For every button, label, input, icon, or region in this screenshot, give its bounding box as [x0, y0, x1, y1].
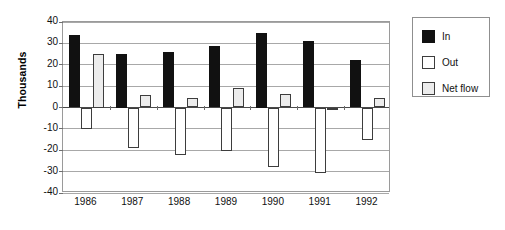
bar-group	[344, 22, 391, 191]
bar-net-flow-1989	[233, 88, 244, 107]
y-tick-label: 20	[32, 59, 58, 69]
bar-in-1990	[256, 33, 267, 108]
legend-item-net-flow[interactable]: Net flow	[422, 81, 478, 95]
bar-in-1991	[303, 41, 314, 107]
bar-group	[110, 22, 157, 191]
y-tick-label: 0	[32, 102, 58, 112]
legend-swatch-icon	[422, 82, 435, 95]
x-tick-label-1986: 1986	[62, 196, 109, 207]
x-tick-label-1988: 1988	[156, 196, 203, 207]
y-axis-tick-labels: 403020100-10-20-30-40	[29, 21, 58, 192]
bar-out-1989	[221, 108, 232, 152]
plot-area	[62, 21, 390, 192]
y-tick-label: -40	[32, 187, 58, 197]
bar-out-1991	[315, 108, 326, 173]
bar-group	[63, 22, 110, 191]
bar-in-1986	[69, 35, 80, 108]
x-axis-tick-labels: 1986198719881989199019911992	[62, 196, 390, 212]
y-tick-label: 30	[32, 37, 58, 47]
chart-legend: InOutNet flow	[412, 17, 490, 97]
legend-item-in[interactable]: In	[422, 29, 450, 43]
bar-in-1989	[209, 46, 220, 108]
bar-group	[204, 22, 251, 191]
bar-out-1992	[362, 108, 373, 140]
bar-out-1986	[81, 108, 92, 129]
legend-swatch-icon	[422, 56, 435, 69]
y-tick-label: -20	[32, 144, 58, 154]
bar-in-1987	[116, 54, 127, 107]
bar-in-1988	[163, 52, 174, 108]
bar-group	[250, 22, 297, 191]
y-tick-label: 40	[32, 16, 58, 26]
x-tick-label-1989: 1989	[203, 196, 250, 207]
y-tick-label: -10	[32, 123, 58, 133]
y-tick-label: 10	[32, 80, 58, 90]
bar-net-flow-1986	[93, 54, 104, 107]
legend-item-out[interactable]: Out	[422, 55, 458, 69]
legend-label: Net flow	[442, 82, 478, 95]
bar-out-1988	[175, 108, 186, 155]
legend-swatch-icon	[422, 30, 435, 43]
bar-in-1992	[350, 60, 361, 107]
gridline-y	[63, 193, 389, 194]
legend-label: Out	[442, 56, 458, 69]
bar-net-flow-1987	[140, 95, 151, 108]
bar-net-flow-1990	[280, 94, 291, 108]
bar-group	[157, 22, 204, 191]
bar-out-1990	[268, 108, 279, 168]
x-tick-label-1987: 1987	[109, 196, 156, 207]
bar-group	[297, 22, 344, 191]
bar-net-flow-1991	[327, 108, 338, 110]
bar-out-1987	[128, 108, 139, 149]
y-tick-mark	[59, 193, 63, 194]
legend-label: In	[442, 30, 450, 43]
bar-net-flow-1992	[374, 98, 385, 108]
bar-chart: Thousands 403020100-10-20-30-40 19861987…	[0, 0, 505, 230]
y-tick-label: -30	[32, 166, 58, 176]
bar-net-flow-1988	[187, 98, 198, 108]
x-tick-label-1992: 1992	[343, 196, 390, 207]
x-tick-label-1991: 1991	[296, 196, 343, 207]
x-tick-label-1990: 1990	[249, 196, 296, 207]
